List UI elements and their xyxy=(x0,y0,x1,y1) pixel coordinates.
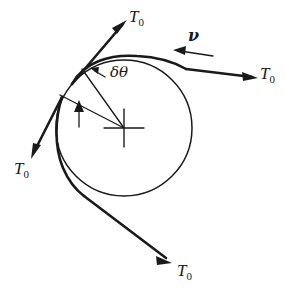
arrow-head-icon-right xyxy=(242,72,258,81)
label-tension-left-subscript: 0 xyxy=(23,168,29,180)
label-tension-right-subscript: 0 xyxy=(269,73,275,85)
label-tension-right: T0 xyxy=(260,65,275,85)
label-tension-top: T0 xyxy=(129,8,144,28)
radius-line-lower xyxy=(60,95,124,128)
diagram-canvas xyxy=(0,0,285,298)
cross-mark-icon xyxy=(104,109,144,147)
label-velocity: ν xyxy=(188,28,199,44)
rope-segment-right xyxy=(186,69,252,77)
arrow-head-icon-left xyxy=(31,143,41,159)
rope-segment-bottom xyxy=(84,196,166,258)
figure-container: T0 T0 T0 T0 δθ ν xyxy=(0,0,285,298)
arrow-head-icon-velocity xyxy=(173,46,186,55)
arrow-head-icon-top xyxy=(112,20,127,34)
label-tension-bottom: T0 xyxy=(177,262,192,282)
label-tension-bottom-subscript: 0 xyxy=(186,270,192,282)
label-delta-theta: δθ xyxy=(110,65,128,80)
label-tension-top-subscript: 0 xyxy=(138,16,144,28)
arrow-head-icon-delta-theta xyxy=(90,67,99,74)
label-tension-left: T0 xyxy=(14,160,29,180)
